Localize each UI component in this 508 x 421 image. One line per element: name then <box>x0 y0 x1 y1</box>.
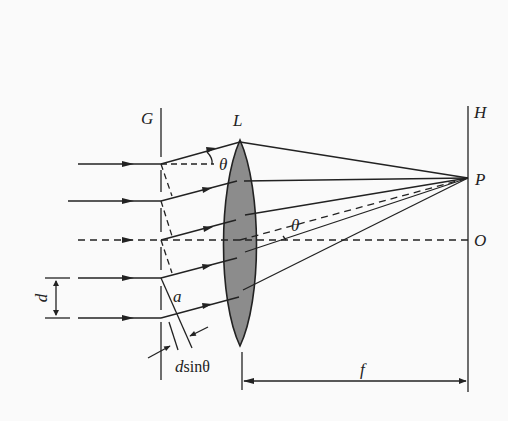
label-slit-width: a <box>173 287 182 306</box>
incident-rays <box>68 161 161 321</box>
label-path-difference: dsinθ <box>175 357 210 376</box>
lens <box>224 140 257 346</box>
theta-arc-top <box>207 152 212 164</box>
label-focal: f <box>360 360 367 379</box>
label-point-p: P <box>474 170 485 189</box>
label-screen: H <box>473 103 488 122</box>
dsin-arrow-left <box>148 346 170 358</box>
label-spacing: d <box>32 293 51 302</box>
label-lens: L <box>232 111 242 130</box>
grating-diffraction-diagram: G L H P O θ θ a f d dsinθ <box>0 0 508 421</box>
wavefront-lines <box>161 164 172 273</box>
label-point-o: O <box>474 231 486 250</box>
dsin-arrow-right <box>190 327 208 336</box>
converging-rays <box>240 142 468 290</box>
label-grating: G <box>141 109 153 128</box>
label-angle-top: θ <box>219 155 227 174</box>
label-angle-axis: θ <box>291 216 299 235</box>
